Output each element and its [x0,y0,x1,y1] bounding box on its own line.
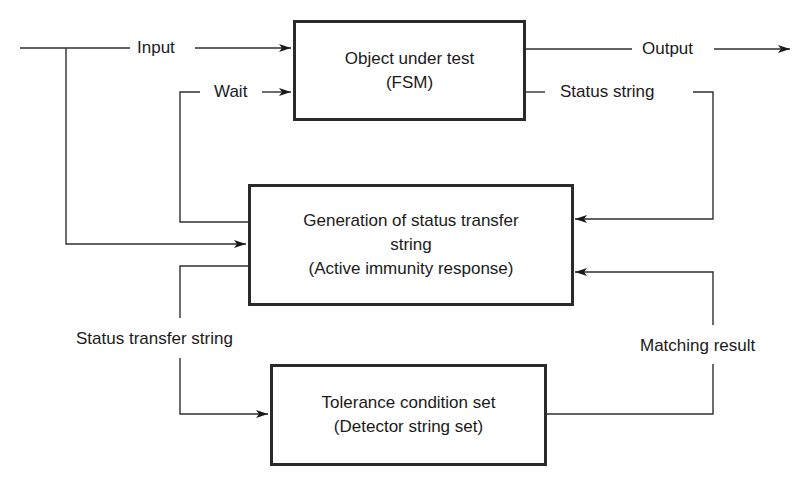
wait-label: Wait [212,82,249,102]
generator-title: Generation of status transfer [303,209,518,233]
tolerance-title: Tolerance condition set [322,391,496,415]
fsm-box: Object under test (FSM) [293,20,526,121]
matching-result-label: Matching result [636,336,759,356]
fsm-title: Object under test [345,47,474,71]
status-string-label: Status string [556,82,659,102]
generator-title-cont: string [390,233,432,257]
tolerance-box: Tolerance condition set (Detector string… [270,364,547,466]
tolerance-subtitle: (Detector string set) [334,415,483,439]
input-branch-arrow [66,48,246,244]
status-transfer-string-label: Status transfer string [72,329,237,349]
output-label: Output [638,39,697,59]
fsm-subtitle: (FSM) [386,71,433,95]
input-label: Input [133,38,179,58]
generator-subtitle: (Active immunity response) [308,257,513,281]
generator-box: Generation of status transfer string (Ac… [248,184,574,306]
